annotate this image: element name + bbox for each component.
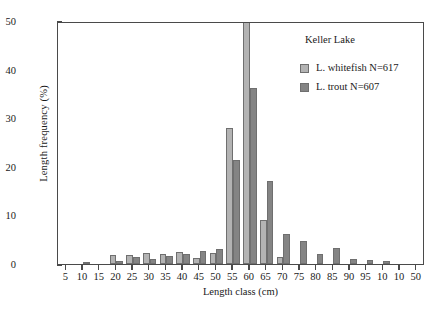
bar bbox=[383, 261, 390, 264]
bar bbox=[317, 254, 324, 264]
chart-figure: Length frequency (%) 01020304050 5101520… bbox=[0, 0, 447, 316]
y-tick-label: 10 bbox=[0, 211, 16, 221]
x-tick-mark bbox=[148, 265, 149, 270]
y-axis-title: Length frequency (%) bbox=[38, 24, 49, 244]
legend-item: L. whitefish N=617 bbox=[300, 61, 399, 75]
bar bbox=[333, 248, 340, 264]
bar bbox=[83, 262, 90, 264]
bar bbox=[193, 258, 200, 264]
x-tick-mark bbox=[215, 265, 216, 270]
x-tick-mark bbox=[365, 265, 366, 270]
x-tick-mark bbox=[231, 265, 232, 270]
bar bbox=[143, 253, 150, 264]
x-axis-title: Length class (cm) bbox=[57, 286, 424, 297]
x-tick-mark bbox=[248, 265, 249, 270]
x-tick-mark bbox=[65, 265, 66, 270]
bar bbox=[350, 259, 357, 264]
x-tick-mark bbox=[181, 265, 182, 270]
x-tick-mark bbox=[131, 265, 132, 270]
legend-swatch-icon bbox=[300, 64, 309, 73]
x-tick-mark bbox=[382, 265, 383, 270]
x-tick-mark bbox=[415, 265, 416, 270]
bar bbox=[243, 22, 250, 264]
x-tick-mark bbox=[198, 265, 199, 270]
bar bbox=[166, 256, 173, 264]
x-tick-mark bbox=[98, 265, 99, 270]
y-tick-label: 20 bbox=[0, 163, 16, 173]
bar bbox=[233, 160, 240, 264]
bar bbox=[176, 252, 183, 264]
x-tick-label: 50 bbox=[396, 271, 436, 283]
bar bbox=[210, 253, 217, 264]
bar bbox=[260, 220, 267, 264]
x-tick-mark bbox=[315, 265, 316, 270]
y-tick-label: 40 bbox=[0, 66, 16, 76]
x-tick-mark bbox=[348, 265, 349, 270]
x-tick-mark bbox=[332, 265, 333, 270]
bar bbox=[133, 257, 140, 264]
x-tick-mark bbox=[282, 265, 283, 270]
x-tick-mark bbox=[81, 265, 82, 270]
x-tick-mark bbox=[165, 265, 166, 270]
legend-item: L. trout N=607 bbox=[300, 80, 399, 94]
legend-entries: L. whitefish N=617L. trout N=607 bbox=[300, 61, 399, 94]
x-tick-mark bbox=[115, 265, 116, 270]
bar bbox=[267, 181, 274, 264]
bar bbox=[150, 259, 157, 264]
bar bbox=[250, 88, 257, 264]
bar bbox=[126, 255, 133, 264]
y-tick-label: 30 bbox=[0, 114, 16, 124]
bar bbox=[116, 261, 123, 264]
bar bbox=[226, 128, 233, 264]
legend-item-label: L. whitefish N=617 bbox=[316, 61, 399, 75]
bar bbox=[367, 260, 374, 264]
y-tick-label: 50 bbox=[0, 17, 16, 27]
legend-item-label: L. trout N=607 bbox=[316, 80, 379, 94]
x-tick-mark bbox=[298, 265, 299, 270]
bar bbox=[216, 249, 223, 264]
bar bbox=[200, 251, 207, 264]
bar bbox=[277, 257, 284, 264]
bar bbox=[110, 255, 117, 264]
x-tick-mark bbox=[398, 265, 399, 270]
y-tick-label: 0 bbox=[0, 260, 16, 270]
bar bbox=[183, 254, 190, 264]
bar bbox=[160, 254, 167, 264]
bar bbox=[300, 241, 307, 264]
bar bbox=[283, 234, 290, 264]
legend-swatch-icon bbox=[300, 83, 309, 92]
legend-lake-label: Keller Lake bbox=[305, 33, 399, 47]
x-tick-mark bbox=[265, 265, 266, 270]
chart-legend: Keller Lake L. whitefish N=617L. trout N… bbox=[300, 33, 399, 99]
